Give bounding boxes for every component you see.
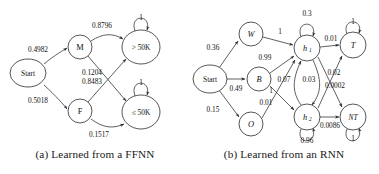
edge-label-b-h1: 0.99 <box>259 53 272 62</box>
edge-label-h2-h1: 0.07 <box>278 75 291 84</box>
node-b: B <box>247 67 271 91</box>
panel-ffnn: Start M F > 50K ≤ 50K 0.4982 0.5018 0.87… <box>0 0 190 174</box>
caption-rnn: (b) Learned from an RNN <box>189 148 379 160</box>
edge-label-h1-h2: 0.03 <box>303 75 316 84</box>
edge-label-m-le50k: 0.1204 <box>82 68 102 77</box>
edge-h1-to-t <box>320 45 339 47</box>
node-b-label: B <box>256 75 261 84</box>
edge-f-to-le50k <box>91 119 124 127</box>
edge-label-f-le50k: 0.1517 <box>89 130 109 139</box>
figure-two-automata: Start M F > 50K ≤ 50K 0.4982 0.5018 0.87… <box>0 0 379 174</box>
node-t: T <box>340 32 366 58</box>
edge-label-h1-t: 0.01 <box>325 34 338 43</box>
edge-label-start-f: 0.5018 <box>28 96 48 105</box>
node-start: Start <box>10 59 46 87</box>
ffnn-state-diagram: Start M F > 50K ≤ 50K 0.4982 0.5018 0.87… <box>0 0 190 146</box>
edge-label-w-h1: 1 <box>278 27 282 36</box>
edge-start-to-w <box>219 41 238 68</box>
edge-label-m-gt50k: 0.8796 <box>92 21 112 30</box>
node-gt50k-label: > 50K <box>132 43 151 52</box>
node-start: Start <box>193 65 227 93</box>
node-h1-label: h <box>303 44 307 53</box>
node-nt: NT <box>340 104 366 130</box>
node-le50k: ≤ 50K <box>122 95 160 129</box>
node-h1: h 1 <box>294 35 320 61</box>
node-le50k-label: ≤ 50K <box>132 108 151 117</box>
edge-w-to-h1 <box>263 37 293 45</box>
node-gt50k: > 50K <box>122 30 160 64</box>
edge-m-to-gt50k <box>91 35 123 41</box>
edge-h2-to-h1 <box>294 61 301 105</box>
node-m-label: M <box>76 43 84 52</box>
node-h2-subscript: 2 <box>309 116 312 122</box>
node-h1-subscript: 1 <box>309 47 312 53</box>
node-w: W <box>239 22 263 46</box>
edge-label-start-b: 0.49 <box>230 84 243 93</box>
node-f: F <box>68 99 92 123</box>
node-nt-label: NT <box>347 113 358 122</box>
node-o: O <box>239 112 263 136</box>
node-h2-label: h <box>303 113 307 122</box>
edge-b-to-h1 <box>270 56 294 73</box>
caption-ffnn: (a) Learned from a FFNN <box>0 148 190 160</box>
node-start-label: Start <box>21 69 36 78</box>
edge-label-o-h1: 1 <box>269 86 273 95</box>
node-f-label: F <box>78 107 83 116</box>
edge-label-b-h2: 0.01 <box>260 98 273 107</box>
edge-label-h2-self: 0.96 <box>301 136 314 145</box>
edge-o-to-h1 <box>262 60 295 118</box>
edge-label-h1-self: 0.3 <box>302 9 311 18</box>
edge-label-h2-nt: 0.0086 <box>320 121 340 130</box>
node-start-label: Start <box>203 75 218 84</box>
edge-label-le50k-self: 1 <box>139 78 143 87</box>
node-o-label: O <box>248 120 254 129</box>
panel-rnn: Start W B O h 1 h 2 <box>189 0 379 174</box>
edge-start-to-o <box>219 90 239 117</box>
edge-label-h2-t: 0.02 <box>328 68 341 77</box>
edge-label-t-self: 1 <box>351 17 355 26</box>
edge-label-start-w: 0.36 <box>207 43 220 52</box>
edge-label-nt-self: 1 <box>351 134 355 143</box>
node-m: M <box>68 35 92 59</box>
edge-label-h1-nt: 0.0002 <box>325 81 345 90</box>
edge-label-start-o: 0.15 <box>207 105 220 114</box>
edge-label-start-m: 0.4982 <box>28 45 48 54</box>
edge-label-gt50k-self: 1 <box>139 13 143 22</box>
node-w-label: W <box>248 30 256 39</box>
node-h2: h 2 <box>294 104 320 130</box>
rnn-state-diagram: Start W B O h 1 h 2 <box>189 0 379 146</box>
edge-label-f-gt50k: 0.8483 <box>82 77 102 86</box>
